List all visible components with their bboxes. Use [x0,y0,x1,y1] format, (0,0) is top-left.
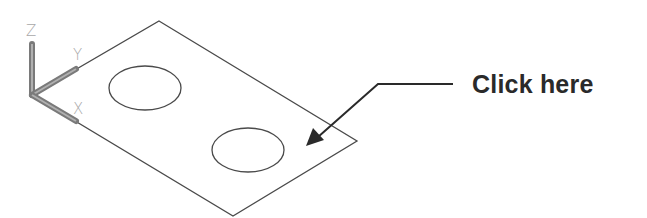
click-here-callout: Click here [472,70,594,99]
hole-2[interactable] [212,128,284,172]
ucs-icon [32,44,76,121]
y-axis-label: Y [73,46,82,64]
z-axis-label: Z [26,22,36,40]
callout-arrow [306,84,453,146]
x-axis-label: X [73,100,83,118]
hole-1[interactable] [109,66,181,110]
cad-viewport[interactable] [0,0,647,218]
